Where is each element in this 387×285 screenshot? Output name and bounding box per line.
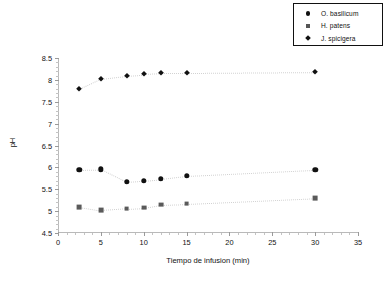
legend-entry-o-basilicum: O. basilicum [294,7,382,20]
chart-legend: O. basilicum H. patens J. spicigera [293,3,383,46]
y-minor-tick [56,84,59,85]
y-minor-tick [56,62,59,63]
x-tick-mark [187,232,188,236]
x-minor-tick [341,233,342,236]
y-minor-tick [56,89,59,90]
x-minor-tick [298,233,299,236]
y-tick-mark [55,167,59,168]
y-minor-tick [56,93,59,94]
data-point [184,201,189,206]
data-point [77,204,82,209]
data-point [313,196,318,201]
y-minor-tick [56,229,59,230]
x-minor-tick [255,233,256,236]
y-axis-title: pH [8,138,17,148]
y-tick-mark [55,102,59,103]
y-tick-mark [55,211,59,212]
y-minor-tick [56,111,59,112]
y-minor-tick [56,176,59,177]
x-tick-mark [315,232,316,236]
x-tick-mark [58,232,59,236]
y-minor-tick [56,115,59,116]
x-tick-label: 30 [311,238,319,247]
y-minor-tick [56,150,59,151]
y-tick-mark [55,189,59,190]
x-minor-tick [135,233,136,236]
x-minor-tick [178,233,179,236]
y-minor-tick [56,202,59,203]
x-minor-tick [75,233,76,236]
y-minor-tick [56,97,59,98]
y-tick-mark [55,146,59,147]
y-minor-tick [56,159,59,160]
plot-area: 4.555.566.577.588.5 05101520253035 [58,58,358,233]
x-tick-label: 20 [225,238,233,247]
x-tick-label: 10 [140,238,148,247]
legend-entry-j-spicigera: J. spicigera [294,32,382,45]
y-tick-label: 5.5 [42,185,52,194]
data-point [77,86,81,90]
y-minor-tick [56,119,59,120]
x-minor-tick [281,233,282,236]
legend-label: O. basilicum [321,10,358,17]
y-minor-tick [56,172,59,173]
x-tick-mark [101,232,102,236]
data-point [313,70,317,74]
x-minor-tick [92,233,93,236]
x-tick-label: 5 [99,238,103,247]
x-tick-label: 25 [268,238,276,247]
x-minor-tick [161,233,162,236]
y-minor-tick [56,67,59,68]
y-minor-tick [56,185,59,186]
x-minor-tick [289,233,290,236]
chart-figure: O. basilicum H. patens J. spicigera 4.55… [0,0,387,285]
x-minor-tick [109,233,110,236]
y-minor-tick [56,181,59,182]
x-minor-tick [127,233,128,236]
y-tick-label: 8 [48,75,52,84]
x-minor-tick [212,233,213,236]
y-minor-tick [56,137,59,138]
y-tick-mark [55,124,59,125]
x-tick-mark [358,232,359,236]
y-tick-label: 5 [48,207,52,216]
circle-marker-icon [300,11,316,16]
x-minor-tick [238,233,239,236]
y-tick-label: 6 [48,163,52,172]
x-minor-tick [264,233,265,236]
legend-entry-h-patens: H. patens [294,20,382,33]
x-tick-mark [144,232,145,236]
plot-frame [58,58,358,233]
y-minor-tick [56,224,59,225]
diamond-marker-icon [300,36,316,40]
y-tick-mark [55,80,59,81]
x-axis-title: Tiempo de infusion (min) [58,256,358,265]
y-tick-label: 7.5 [42,97,52,106]
y-minor-tick [56,220,59,221]
x-minor-tick [204,233,205,236]
y-tick-label: 4.5 [42,229,52,238]
y-minor-tick [56,194,59,195]
data-point [98,208,103,213]
data-point [124,206,129,211]
y-minor-tick [56,106,59,107]
x-minor-tick [152,233,153,236]
y-minor-tick [56,207,59,208]
x-minor-tick [84,233,85,236]
y-minor-tick [56,154,59,155]
data-point [158,202,163,207]
legend-label: J. spicigera [321,35,356,42]
data-point [159,71,163,75]
data-point [124,73,128,77]
y-tick-mark [55,58,59,59]
y-minor-tick [56,76,59,77]
y-minor-tick [56,216,59,217]
data-point [184,71,188,75]
y-minor-tick [56,198,59,199]
x-minor-tick [195,233,196,236]
x-tick-mark [272,232,273,236]
y-tick-label: 6.5 [42,141,52,150]
data-point [99,76,103,80]
y-minor-tick [56,128,59,129]
data-point [142,72,146,76]
